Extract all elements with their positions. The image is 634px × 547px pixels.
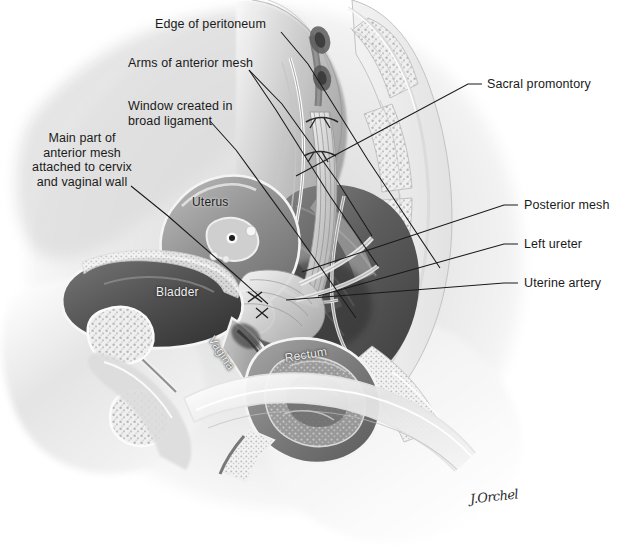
callout-arms-of-anterior-mesh: Arms of anterior mesh	[128, 56, 253, 71]
medical-illustration-figure: Edge of peritoneum Arms of anterior mesh…	[0, 0, 634, 547]
callout-posterior-mesh: Posterior mesh	[524, 198, 609, 213]
callout-window-broad-ligament: Window created in broad ligament	[128, 99, 233, 128]
callout-edge-of-peritoneum: Edge of peritoneum	[155, 17, 266, 32]
callout-sacral-promontory: Sacral promontory	[487, 77, 591, 92]
callout-main-part-anterior-mesh: Main part of anterior mesh attached to c…	[30, 131, 134, 189]
organ-label-bladder: Bladder	[156, 286, 199, 299]
organ-label-uterus: Uterus	[192, 196, 229, 209]
callout-uterine-artery: Uterine artery	[524, 276, 601, 291]
callout-left-ureter: Left ureter	[524, 237, 582, 252]
